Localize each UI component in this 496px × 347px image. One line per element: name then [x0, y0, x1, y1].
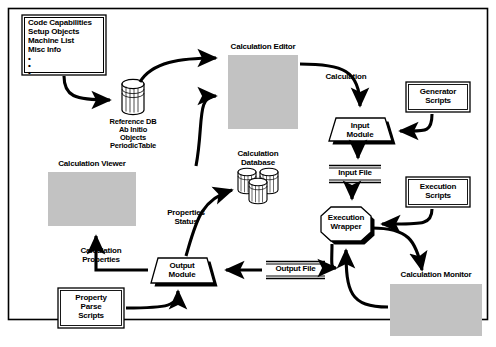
generator-scripts-label-line-2[interactable]: Scripts — [408, 97, 468, 105]
calculation-edge-label: Calculation — [311, 73, 381, 81]
execution-wrapper-label-line-2[interactable]: Wrapper — [316, 223, 376, 231]
output-module-label-line-2[interactable]: Module — [152, 271, 212, 279]
calculation-properties-edge-label-line-2: Properties — [64, 256, 138, 264]
capabilities-line-4: Misc Info — [28, 46, 61, 54]
calculation-editor-screenshot — [228, 55, 298, 129]
calculation-viewer-caption: Calculation Viewer — [42, 160, 142, 168]
calculation-monitor-screenshot — [390, 284, 482, 336]
reference-db-cylinder — [122, 79, 144, 114]
calculation-database-caption-line-2: Database — [218, 159, 298, 167]
reference-db-caption-line-4: PeriodicTable — [93, 142, 173, 150]
output-file-label: Output File — [266, 265, 325, 273]
input-module-label-line-2[interactable]: Module — [330, 131, 390, 139]
calculation-monitor-caption: Calculation Monitor — [384, 271, 488, 279]
calculation-editor-caption: Calculation Editor — [213, 43, 313, 51]
property-parse-scripts-label-line-3[interactable]: Scripts — [61, 312, 121, 320]
properties-status-edge-label-line-2: Status — [155, 218, 217, 226]
diagram-page: Code Capabilities Setup Objects Machine … — [0, 0, 496, 347]
capabilities-bullet-3: • — [28, 69, 31, 77]
input-file-label: Input File — [325, 169, 385, 177]
calculation-viewer-screenshot — [48, 172, 136, 226]
execution-scripts-label-line-2[interactable]: Scripts — [408, 192, 468, 200]
